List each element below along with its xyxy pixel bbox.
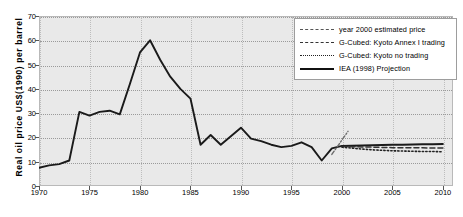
legend-item-2: G-Cubed: Kyoto no trading bbox=[300, 49, 452, 62]
y-axis-tick bbox=[35, 137, 39, 138]
x-tick-label: 1970 bbox=[31, 188, 48, 197]
series-line bbox=[332, 131, 348, 154]
legend-label: G-Cubed: Kyoto Annex I trading bbox=[339, 38, 445, 47]
y-axis-tick-labels: 010203040506070 bbox=[0, 16, 36, 186]
legend-label: IEA (1998) Projection bbox=[339, 64, 410, 73]
x-tick-label: 1985 bbox=[182, 188, 199, 197]
y-axis-tick bbox=[35, 65, 39, 66]
y-tick-label: 50 bbox=[2, 60, 36, 69]
legend-label: G-Cubed: Kyoto no trading bbox=[339, 51, 428, 60]
chart-legend: year 2000 estimated price G-Cubed: Kyoto… bbox=[294, 18, 457, 80]
oil-price-chart: Real oil price US$(1990) per barrel 0102… bbox=[0, 0, 463, 217]
x-tick-label: 2005 bbox=[384, 188, 401, 197]
legend-label: year 2000 estimated price bbox=[339, 25, 425, 34]
legend-swatch-dashed-icon bbox=[300, 38, 334, 48]
y-tick-label: 70 bbox=[2, 12, 36, 21]
x-tick-label: 1990 bbox=[233, 188, 250, 197]
legend-item-3: IEA (1998) Projection bbox=[300, 62, 452, 75]
legend-swatch-dashdot-icon bbox=[300, 25, 334, 35]
y-axis-tick bbox=[35, 162, 39, 163]
y-tick-label: 20 bbox=[2, 133, 36, 142]
x-axis-tick-labels: 197019751980198519901995200020052010 bbox=[39, 188, 453, 202]
x-tick-label: 1995 bbox=[283, 188, 300, 197]
y-tick-label: 40 bbox=[2, 84, 36, 93]
y-tick-label: 10 bbox=[2, 157, 36, 166]
y-axis-tick bbox=[35, 113, 39, 114]
y-axis-tick bbox=[35, 40, 39, 41]
y-tick-label: 60 bbox=[2, 36, 36, 45]
y-axis-tick bbox=[35, 16, 39, 17]
x-tick-label: 1980 bbox=[132, 188, 149, 197]
legend-swatch-solid-icon bbox=[300, 64, 334, 74]
y-axis-tick bbox=[35, 186, 39, 187]
y-axis-tick bbox=[35, 89, 39, 90]
legend-item-0: year 2000 estimated price bbox=[300, 23, 452, 36]
x-tick-label: 2000 bbox=[334, 188, 351, 197]
x-tick-label: 2010 bbox=[435, 188, 452, 197]
legend-item-1: G-Cubed: Kyoto Annex I trading bbox=[300, 36, 452, 49]
x-tick-label: 1975 bbox=[81, 188, 98, 197]
legend-swatch-dotted-icon bbox=[300, 51, 334, 61]
y-tick-label: 30 bbox=[2, 109, 36, 118]
